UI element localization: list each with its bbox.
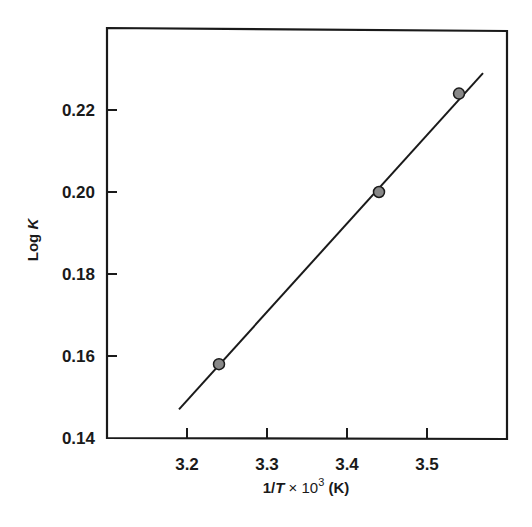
data-series [179,73,483,409]
data-point [374,187,385,198]
plot-frame [107,28,507,439]
log-k-vs-inverse-temperature-chart: 3.23.33.43.5 0.140.160.180.200.22 1/T × … [0,0,532,527]
x-tick-label: 3.2 [175,455,199,474]
x-axis-label: 1/T × 103 (K) [263,476,350,496]
y-tick-label: 0.18 [62,265,95,284]
data-point [214,359,225,370]
y-axis-ticks: 0.140.160.180.200.22 [62,101,117,448]
y-tick-label: 0.14 [62,429,96,448]
y-tick-label: 0.22 [62,101,95,120]
y-axis-label: Log K [24,218,41,262]
y-tick-label: 0.20 [62,183,95,202]
x-axis-ticks: 3.23.33.43.5 [175,428,439,474]
x-tick-label: 3.4 [335,455,359,474]
x-tick-label: 3.5 [415,455,439,474]
x-tick-label: 3.3 [255,455,279,474]
data-point [454,88,465,99]
plot-border [107,28,507,439]
fit-line [179,73,483,409]
y-tick-label: 0.16 [62,347,95,366]
